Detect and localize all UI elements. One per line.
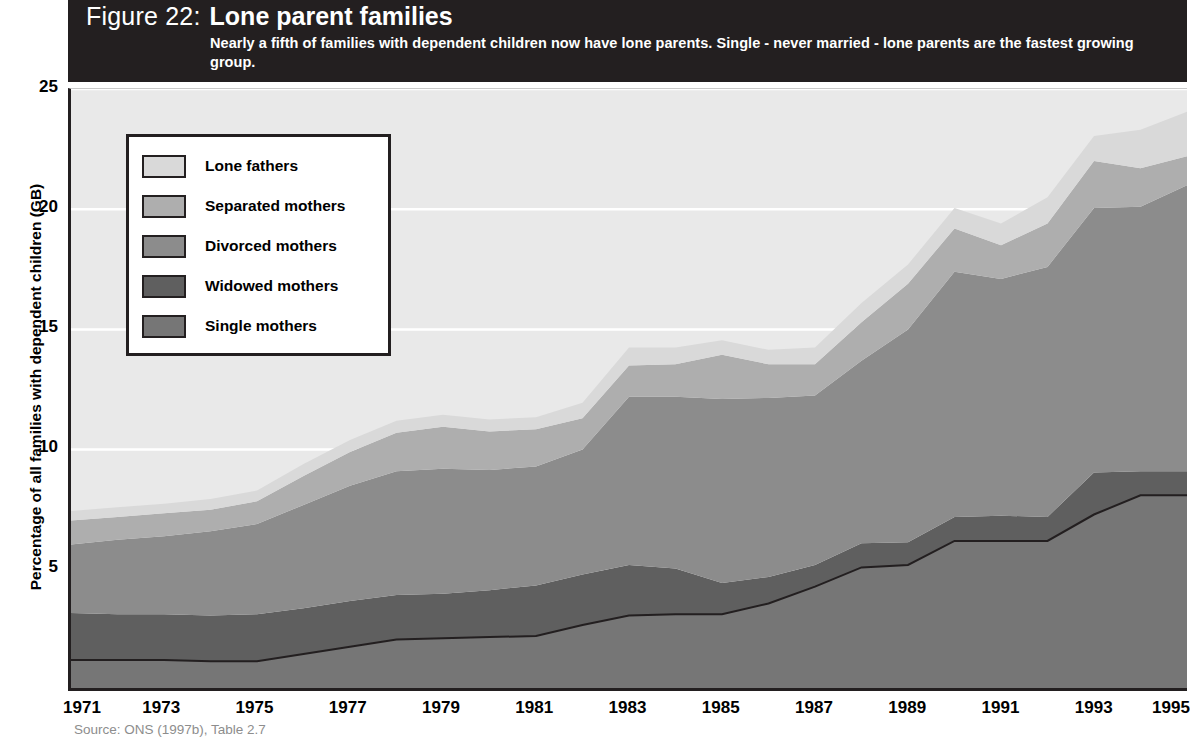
- x-axis-tick-label: 1991: [982, 698, 1020, 718]
- legend-item-label: Divorced mothers: [205, 237, 337, 255]
- chart-legend: Lone fathersSeparated mothersDivorced mo…: [126, 134, 391, 356]
- legend-swatch-icon: [142, 275, 186, 298]
- legend-swatch-icon: [142, 155, 186, 178]
- x-axis-tick-label: 1971: [63, 698, 101, 718]
- page-title: Lone parent families: [210, 2, 453, 30]
- x-axis-tick-label: 1975: [236, 698, 274, 718]
- legend-item: Widowed mothers: [129, 266, 388, 306]
- x-axis-tick-label: 1973: [142, 698, 180, 718]
- legend-swatch-icon: [142, 315, 186, 338]
- legend-item-label: Widowed mothers: [205, 277, 338, 295]
- x-axis-tick-label: 1993: [1075, 698, 1113, 718]
- legend-item: Single mothers: [129, 306, 388, 346]
- x-axis-tick-label: 1985: [702, 698, 740, 718]
- y-axis-tick-label: 10: [4, 437, 58, 457]
- x-axis-tick-label: 1995: [1152, 698, 1190, 718]
- x-axis-tick-label: 1989: [888, 698, 926, 718]
- x-axis-tick-label: 1987: [795, 698, 833, 718]
- x-axis-tick-label: 1983: [609, 698, 647, 718]
- y-axis-title: Percentage of all families with dependen…: [27, 107, 45, 667]
- y-axis-tick-label: 5: [4, 557, 58, 577]
- y-axis-tick-label: 15: [4, 317, 58, 337]
- x-axis-line: [68, 688, 1187, 691]
- source-note: Source: ONS (1997b), Table 2.7: [74, 722, 266, 737]
- y-axis-tick-label: 25: [4, 77, 58, 97]
- y-axis-tick-label: 20: [4, 197, 58, 217]
- x-axis-tick-label: 1977: [329, 698, 367, 718]
- legend-swatch-icon: [142, 195, 186, 218]
- header-band: Figure 22:Lone parent families Nearly a …: [68, 0, 1187, 82]
- legend-swatch-icon: [142, 235, 186, 258]
- chart-subtitle: Nearly a fifth of families with dependen…: [210, 34, 1160, 72]
- legend-item: Separated mothers: [129, 186, 388, 226]
- figure-heading: Figure 22:Lone parent families: [86, 2, 453, 31]
- legend-item: Lone fathers: [129, 146, 388, 186]
- legend-item-label: Separated mothers: [205, 197, 345, 215]
- legend-item-label: Lone fathers: [205, 157, 298, 175]
- x-axis-tick-label: 1981: [515, 698, 553, 718]
- figure-number-label: Figure 22:: [86, 2, 201, 30]
- legend-item-label: Single mothers: [205, 317, 317, 335]
- x-axis-tick-label: 1979: [422, 698, 460, 718]
- legend-item: Divorced mothers: [129, 226, 388, 266]
